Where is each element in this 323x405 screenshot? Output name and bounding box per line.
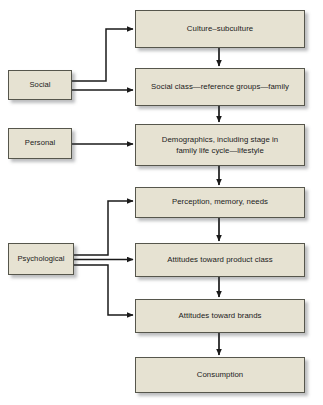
node-demographics-line1: Demographics, including stage in xyxy=(162,135,278,144)
node-demographics-label: Demographics, including stage in family … xyxy=(140,134,300,157)
node-culture-label: Culture–subculture xyxy=(140,24,300,35)
node-social[interactable]: Social xyxy=(8,70,72,100)
node-social-class-label: Social class—reference groups—family xyxy=(140,82,300,93)
node-personal[interactable]: Personal xyxy=(8,128,72,159)
node-psychological-label: Psychological xyxy=(13,254,69,264)
connector-psychological-to-attitudes-brands xyxy=(72,265,133,315)
node-perception[interactable]: Perception, memory, needs xyxy=(135,187,305,218)
node-psychological[interactable]: Psychological xyxy=(8,243,74,275)
node-attitudes-product-label: Attitudes toward product class xyxy=(140,255,300,266)
node-demographics[interactable]: Demographics, including stage in family … xyxy=(135,124,305,166)
node-attitudes-brands[interactable]: Attitudes toward brands xyxy=(135,299,305,333)
node-consumption-label: Consumption xyxy=(140,370,300,381)
node-personal-label: Personal xyxy=(13,138,67,148)
connector-psychological-to-perception xyxy=(72,201,133,255)
node-attitudes-product[interactable]: Attitudes toward product class xyxy=(135,243,305,277)
flowchart-diagram: Social Personal Psychological Culture–su… xyxy=(0,0,323,405)
node-demographics-line2: family life cycle—lifestyle xyxy=(176,146,264,155)
node-consumption[interactable]: Consumption xyxy=(135,357,305,393)
node-culture[interactable]: Culture–subculture xyxy=(135,10,305,48)
node-attitudes-brands-label: Attitudes toward brands xyxy=(140,311,300,322)
node-social-label: Social xyxy=(13,80,67,90)
node-perception-label: Perception, memory, needs xyxy=(140,197,300,208)
connector-social-to-culture xyxy=(72,29,133,81)
node-social-class[interactable]: Social class—reference groups—family xyxy=(135,68,305,106)
